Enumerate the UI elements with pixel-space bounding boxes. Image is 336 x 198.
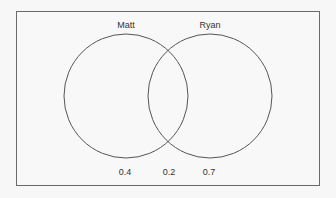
ryan-only-value: 0.7: [203, 167, 216, 177]
matt-label: Matt: [117, 20, 135, 30]
intersection-value: 0.2: [163, 167, 176, 177]
ryan-label: Ryan: [199, 20, 220, 30]
matt-circle: [64, 34, 188, 158]
matt-only-value: 0.4: [119, 167, 132, 177]
ryan-circle: [148, 34, 272, 158]
